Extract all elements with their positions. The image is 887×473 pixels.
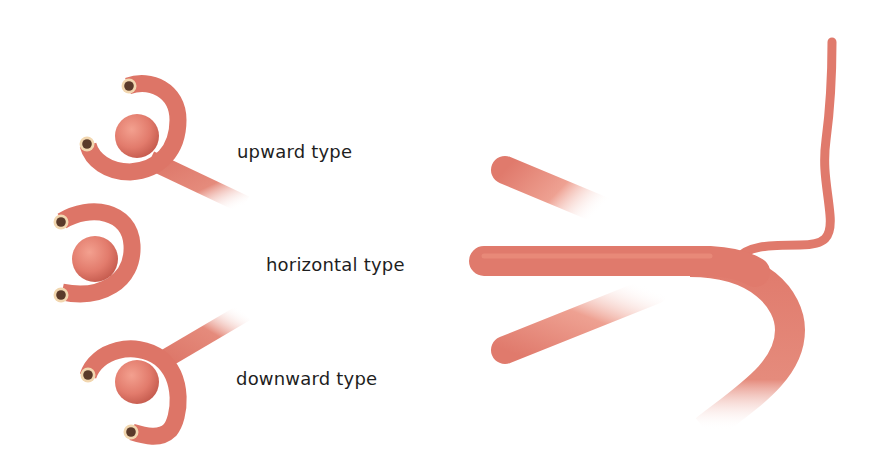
thin-ascending-branch xyxy=(735,42,832,262)
diagram-canvas: upward type horizontal type downward typ… xyxy=(0,0,887,473)
label-downward-type: downward type xyxy=(236,368,377,389)
aneurysm-dome-horizontal xyxy=(72,236,118,282)
right-vessel-diagram xyxy=(484,42,832,430)
aneurysm-dome-upward xyxy=(115,114,159,158)
horizontal-type-vessel xyxy=(54,212,229,303)
label-horizontal-type: horizontal type xyxy=(266,254,405,275)
label-upward-type: upward type xyxy=(237,141,352,162)
curved-descending-vessel xyxy=(690,262,790,430)
upward-type-vessel xyxy=(80,79,246,206)
horizontal-main-vessel xyxy=(484,261,755,272)
downward-branch xyxy=(505,290,655,350)
upward-branch xyxy=(505,170,620,218)
aneurysm-dome-downward xyxy=(115,360,159,404)
downward-type-vessel xyxy=(81,312,246,440)
vessel-illustration xyxy=(0,0,887,473)
